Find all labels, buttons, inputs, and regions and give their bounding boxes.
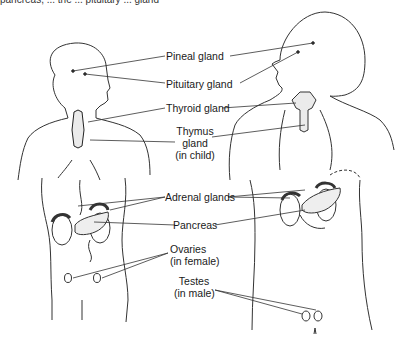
label-thymus-line1: Thymus [175,125,215,137]
caption-fragment: pancreas, ... the ... pituitary ... glan… [0,0,159,5]
label-thymus-line3: (in child) [175,149,215,161]
label-testes: Testes (in male) [174,275,214,299]
label-ovaries-line2: (in female) [170,255,220,267]
label-adrenal-glands: Adrenal glands [165,191,235,203]
label-testes-line1: Testes [174,275,214,287]
label-thymus-gland: Thymus gland (in child) [175,125,215,161]
female-figure [18,43,150,322]
male-figure [229,12,394,334]
label-testes-line2: (in male) [174,287,214,299]
label-thymus-line2: gland [175,137,215,149]
label-ovaries: Ovaries (in female) [170,243,220,267]
label-pancreas: Pancreas [173,219,217,231]
label-ovaries-line1: Ovaries [170,243,220,255]
label-thyroid-gland: Thyroid gland [166,102,230,114]
endocrine-diagram: pancreas, ... the ... pituitary ... glan… [0,0,397,344]
label-pituitary-gland: Pituitary gland [166,78,233,90]
label-pineal-gland: Pineal gland [166,50,224,62]
